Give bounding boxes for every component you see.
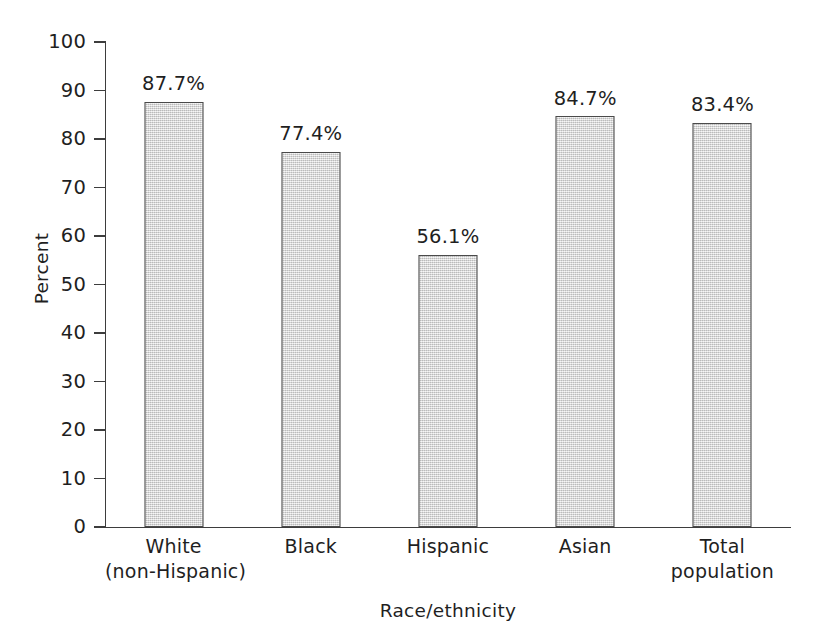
bar-value-label: 56.1%: [417, 227, 480, 247]
x-axis-category-label-line: Black: [242, 534, 379, 559]
bar-group: 84.7%: [517, 42, 654, 527]
x-axis-category-label-line: Total: [654, 534, 791, 559]
bar-group: 56.1%: [379, 42, 516, 527]
bar-chart: Percent 0102030405060708090100 87.7%77.4…: [0, 0, 833, 637]
y-axis-tick-label: 90: [34, 81, 86, 101]
bar-value-label: 83.4%: [691, 95, 754, 115]
y-axis-tick-label: 70: [34, 178, 86, 198]
bar-group: 77.4%: [242, 42, 379, 527]
x-axis-category-label: Totalpopulation: [654, 534, 791, 584]
x-axis-category-label-line: population: [654, 559, 791, 584]
y-axis-tick-label: 50: [34, 275, 86, 295]
x-axis-category-label-line: White: [105, 534, 242, 559]
y-axis-tick-label: 100: [34, 32, 86, 52]
x-axis-category-label-line: Hispanic: [379, 534, 516, 559]
bar: [281, 152, 340, 527]
bar-value-label: 84.7%: [554, 89, 617, 109]
x-axis-line: [105, 527, 791, 528]
x-axis-category-label-line: (non-Hispanic): [105, 559, 242, 584]
bar-group: 87.7%: [105, 42, 242, 527]
bar-value-label: 87.7%: [142, 74, 205, 94]
x-axis-category-label: Black: [242, 534, 379, 559]
bar-value-label: 77.4%: [279, 124, 342, 144]
bar: [693, 123, 752, 527]
y-axis-tick-label: 10: [34, 469, 86, 489]
x-axis-category-label: Hispanic: [379, 534, 516, 559]
y-axis-tick-label: 30: [34, 372, 86, 392]
x-axis-category-labels: White(non-Hispanic)BlackHispanicAsianTot…: [105, 534, 791, 594]
x-axis-title: Race/ethnicity: [105, 600, 791, 621]
x-axis-category-label-line: Asian: [517, 534, 654, 559]
x-axis-category-label: Asian: [517, 534, 654, 559]
y-axis-tick-label: 60: [34, 226, 86, 246]
y-axis-tick-label: 0: [34, 517, 86, 537]
y-axis-tick-label: 80: [34, 129, 86, 149]
y-axis-tick-label: 20: [34, 420, 86, 440]
bar: [144, 102, 203, 527]
bar: [418, 255, 477, 527]
bar-group: 83.4%: [654, 42, 791, 527]
plot-area: 87.7%77.4%56.1%84.7%83.4%: [105, 42, 791, 527]
x-axis-category-label: White(non-Hispanic): [105, 534, 242, 584]
bar: [556, 116, 615, 527]
y-axis-tick-label: 40: [34, 323, 86, 343]
